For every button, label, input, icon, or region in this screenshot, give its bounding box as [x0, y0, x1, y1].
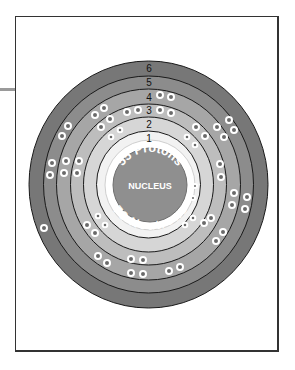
electron — [109, 135, 114, 140]
shell-label-3: 3 — [146, 105, 152, 116]
electron — [95, 253, 101, 259]
electron — [140, 271, 146, 277]
electron — [98, 124, 104, 130]
electron — [157, 107, 163, 113]
shell-label-6: 6 — [146, 63, 152, 74]
electron — [59, 133, 65, 139]
electron — [185, 135, 190, 140]
electron — [208, 215, 214, 221]
electron — [96, 214, 101, 219]
electron — [168, 110, 174, 116]
electron — [61, 170, 67, 176]
electron — [221, 134, 227, 140]
electron — [226, 117, 232, 123]
nucleus-label: NUCLEUS — [128, 181, 172, 191]
electron — [140, 257, 146, 263]
electron — [166, 268, 172, 274]
electron — [76, 158, 82, 164]
electron — [193, 124, 199, 130]
electron — [107, 116, 113, 122]
electron — [103, 223, 108, 228]
atom-diagram: 6 5 4 3 2 1 55 Protons NUCLEUS 78 Neutro… — [0, 0, 295, 370]
electron — [231, 127, 237, 133]
electron — [92, 230, 98, 236]
electron — [168, 94, 174, 100]
electron — [193, 143, 198, 148]
electron — [183, 223, 188, 228]
electron — [118, 128, 123, 133]
electron — [191, 196, 195, 200]
electron — [191, 216, 196, 221]
electron — [201, 220, 207, 226]
electron — [128, 256, 134, 262]
electron — [177, 264, 183, 270]
electron — [214, 124, 220, 130]
electron — [193, 184, 197, 188]
electron — [84, 222, 90, 228]
electron — [220, 229, 226, 235]
electron — [128, 270, 134, 276]
electron — [49, 160, 55, 166]
electron — [217, 161, 223, 167]
electron — [74, 170, 80, 176]
electron — [92, 112, 98, 118]
electron — [135, 107, 141, 113]
electron — [65, 123, 71, 129]
electron — [231, 190, 237, 196]
electron — [213, 238, 219, 244]
electron — [101, 105, 107, 111]
shell-label-4: 4 — [146, 92, 152, 103]
electron — [41, 225, 47, 231]
shell-label-2: 2 — [146, 119, 152, 130]
electron — [242, 206, 248, 212]
electron — [63, 158, 69, 164]
electron — [229, 202, 235, 208]
electron — [47, 172, 53, 178]
electron — [202, 133, 208, 139]
shell-label-5: 5 — [146, 77, 152, 88]
electron — [157, 92, 163, 98]
electron — [124, 109, 130, 115]
electron — [244, 194, 250, 200]
electron — [218, 174, 224, 180]
electron — [104, 260, 110, 266]
